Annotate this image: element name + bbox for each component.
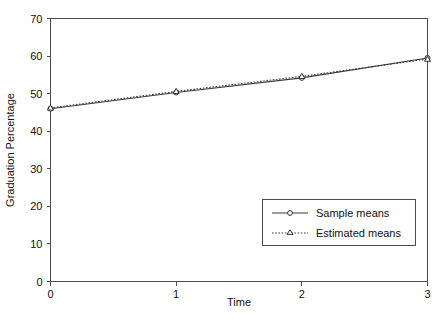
- chart-figure: 010203040506070 0123 Time Graduation Per…: [0, 0, 442, 319]
- y-tick-label: 40: [30, 125, 42, 137]
- x-tick-label: 0: [47, 288, 53, 300]
- x-axis-label: Time: [227, 296, 251, 308]
- series-layer: [48, 55, 431, 111]
- series-line: [51, 58, 428, 109]
- series-sample-means: [48, 55, 430, 111]
- x-tick-label: 3: [424, 288, 430, 300]
- x-tick-label: 1: [173, 288, 179, 300]
- y-axis-label: Graduation Percentage: [4, 93, 16, 207]
- y-tick-label: 60: [30, 50, 42, 62]
- y-tick-label: 20: [30, 200, 42, 212]
- y-tick-label: 10: [30, 238, 42, 250]
- legend-label-sample-means: Sample means: [316, 207, 390, 219]
- y-tick-label: 70: [30, 13, 42, 25]
- chart-legend: Sample means Estimated means: [263, 200, 416, 246]
- y-axis-ticks: 010203040506070: [30, 13, 50, 288]
- x-tick-label: 2: [299, 288, 305, 300]
- y-tick-label: 50: [30, 88, 42, 100]
- legend-label-estimated-means: Estimated means: [316, 227, 401, 239]
- line-chart-canvas: 010203040506070 0123 Time Graduation Per…: [0, 0, 442, 319]
- legend-marker-open-circle: [288, 211, 293, 216]
- y-tick-label: 30: [30, 163, 42, 175]
- y-tick-label: 0: [36, 276, 42, 288]
